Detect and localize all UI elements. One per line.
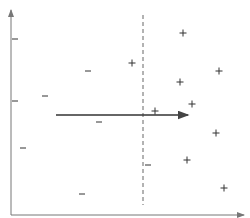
negative-samples bbox=[12, 39, 151, 194]
positive-sample-marker bbox=[221, 185, 228, 192]
positive-sample-marker bbox=[180, 30, 187, 37]
positive-sample-marker bbox=[129, 60, 136, 67]
positive-sample-marker bbox=[189, 101, 196, 108]
positive-sample-marker bbox=[152, 108, 159, 115]
positive-sample-marker bbox=[213, 130, 220, 137]
positive-sample-marker bbox=[216, 68, 223, 75]
diagram-canvas bbox=[0, 0, 250, 218]
positive-sample-marker bbox=[177, 79, 184, 86]
positive-sample-marker bbox=[184, 157, 191, 164]
